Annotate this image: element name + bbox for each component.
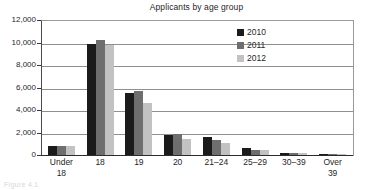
bar-group bbox=[87, 20, 114, 155]
bar bbox=[48, 146, 57, 155]
y-axis-label: 10,000 bbox=[2, 39, 36, 47]
legend-item[interactable]: 2011 bbox=[237, 40, 307, 51]
x-axis-label: Under 18 bbox=[42, 157, 81, 179]
legend-label: 2012 bbox=[247, 53, 266, 63]
bar-group bbox=[164, 20, 191, 155]
x-axis-label: 25–29 bbox=[236, 157, 275, 168]
legend-item[interactable]: 2010 bbox=[237, 27, 307, 38]
bar-group bbox=[203, 20, 230, 155]
bar bbox=[328, 154, 337, 155]
bar bbox=[182, 139, 191, 155]
legend-swatch-icon bbox=[237, 29, 244, 36]
bar-group bbox=[319, 20, 346, 155]
legend-swatch-icon bbox=[237, 55, 244, 62]
bar bbox=[173, 134, 182, 155]
x-axis-label: 21–24 bbox=[197, 157, 236, 168]
bar-group bbox=[48, 20, 75, 155]
legend-label: 2010 bbox=[247, 27, 266, 37]
y-axis-label: 0 bbox=[2, 151, 36, 159]
bar bbox=[66, 146, 75, 155]
legend-label: 2011 bbox=[247, 40, 265, 50]
chart-legend: 201020112012 bbox=[237, 27, 307, 66]
chart-title: Applicants by age group bbox=[41, 2, 352, 12]
x-axis-line bbox=[41, 155, 353, 156]
x-axis-label: 20 bbox=[158, 157, 197, 168]
y-axis-label: 4,000 bbox=[2, 106, 36, 114]
bar-group bbox=[125, 20, 152, 155]
y-axis-label: 12,000 bbox=[2, 16, 36, 24]
bar bbox=[260, 150, 269, 155]
y-axis-labels: 02,0004,0006,0008,00010,00012,000 bbox=[0, 0, 36, 190]
bar bbox=[203, 137, 212, 155]
bar bbox=[87, 44, 96, 155]
x-axis-label: 30–39 bbox=[275, 157, 314, 168]
figure-caption: Figure 4.1 bbox=[4, 181, 39, 188]
bar bbox=[105, 45, 114, 155]
y-axis-label: 8,000 bbox=[2, 61, 36, 69]
bar bbox=[251, 150, 260, 155]
y-axis-label: 2,000 bbox=[2, 129, 36, 137]
bar bbox=[143, 103, 152, 155]
bar bbox=[125, 93, 134, 155]
bar bbox=[212, 140, 221, 155]
legend-item[interactable]: 2012 bbox=[237, 53, 307, 64]
bar bbox=[96, 40, 105, 155]
x-axis-label: 18 bbox=[81, 157, 120, 168]
bar bbox=[280, 153, 289, 155]
legend-swatch-icon bbox=[237, 42, 244, 49]
x-axis-label: Over 39 bbox=[313, 157, 352, 179]
bar bbox=[319, 154, 328, 155]
bar bbox=[134, 91, 143, 155]
bar bbox=[57, 146, 66, 155]
bar bbox=[242, 148, 251, 155]
bar bbox=[221, 143, 230, 155]
bar bbox=[298, 153, 307, 155]
bar bbox=[289, 153, 298, 155]
bar bbox=[337, 154, 346, 155]
y-axis-label: 6,000 bbox=[2, 84, 36, 92]
x-axis-label: 19 bbox=[120, 157, 159, 168]
x-axis-labels: Under 1818192021–2425–2930–39Over 39 bbox=[42, 157, 352, 190]
chart-figure: Applicants by age group 02,0004,0006,000… bbox=[0, 0, 365, 190]
bar bbox=[164, 135, 173, 155]
